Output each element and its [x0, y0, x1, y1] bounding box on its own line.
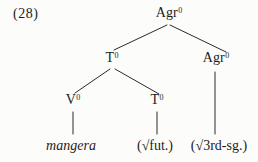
edge-agrtop-t [114, 25, 167, 50]
node-agr0-right-sup: 0 [225, 51, 229, 60]
node-v0: V0 [66, 93, 81, 107]
node-t0-low-sup: 0 [160, 93, 164, 102]
node-t0-low: T0 [150, 93, 163, 107]
node-t0-mid: T0 [105, 51, 118, 65]
node-agr0-top-sup: 0 [178, 6, 182, 15]
node-agr0-right-label: Agr [203, 50, 225, 65]
leaf-fut: (√fut.) [137, 139, 173, 153]
node-t0-low-label: T [150, 92, 159, 107]
leaf-mangera: mangera [46, 139, 96, 153]
node-t0-mid-sup: 0 [115, 51, 119, 60]
node-v0-label: V [66, 92, 76, 107]
edge-t-v [75, 69, 110, 93]
edge-agrtop-agr [170, 25, 226, 52]
node-v0-sup: 0 [76, 93, 80, 102]
node-agr0-top: Agr0 [156, 6, 182, 20]
node-t0-mid-label: T [105, 50, 114, 65]
leaf-3rd-sg: (√3rd-sg.) [191, 139, 247, 153]
node-agr0-right: Agr0 [203, 51, 229, 65]
edge-t-tlow [115, 69, 159, 94]
node-agr0-top-label: Agr [156, 5, 178, 20]
syntax-tree-figure: (28) Agr0 T0 Agr0 V0 T0 mangera (√fut.) … [0, 0, 258, 162]
